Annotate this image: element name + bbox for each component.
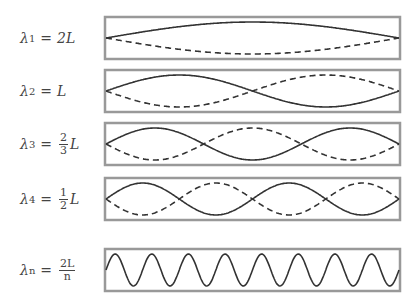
mode-2-label: λ2 =L: [20, 70, 66, 112]
wave-dashed: [106, 128, 399, 160]
mode-3-label: λ3 = 23 L: [20, 123, 79, 165]
wave-solid: [106, 128, 399, 160]
mode-n-label: λn = 2Ln: [20, 249, 77, 291]
wave-dashed: [106, 183, 399, 215]
mode-1-label: λ1 =2L: [20, 17, 75, 59]
mode-1-box: [105, 17, 400, 59]
mode-4-label: λ4 = 12 L: [20, 178, 79, 220]
wave-solid: [106, 254, 399, 286]
wave-solid: [106, 22, 399, 38]
mode-3-box: [105, 123, 400, 165]
wave-dashed: [106, 38, 399, 54]
wave-dashed: [106, 75, 399, 107]
